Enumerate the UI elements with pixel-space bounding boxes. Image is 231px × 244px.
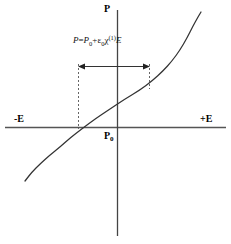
p-zero-subscript: 0 <box>110 135 114 143</box>
arrow-head-right-icon <box>143 64 150 70</box>
p-axis-label: P <box>104 4 110 14</box>
equation-p-subscript: 0 <box>89 40 92 47</box>
negative-e-axis-label: -E <box>14 114 24 124</box>
p-zero-origin-label: P0 <box>104 131 114 141</box>
arrow-head-left-icon <box>78 64 85 70</box>
equation-field: E <box>116 35 122 45</box>
positive-e-axis-label: +E <box>200 114 212 124</box>
polarization-equation: P=P0+ε0χ(1)E <box>73 36 122 45</box>
equation-epsilon-subscript: 0 <box>101 40 104 47</box>
polarization-figure: P -E +E P0 P=P0+ε0χ(1)E <box>0 0 231 244</box>
equation-chi-superscript: (1) <box>108 34 116 41</box>
